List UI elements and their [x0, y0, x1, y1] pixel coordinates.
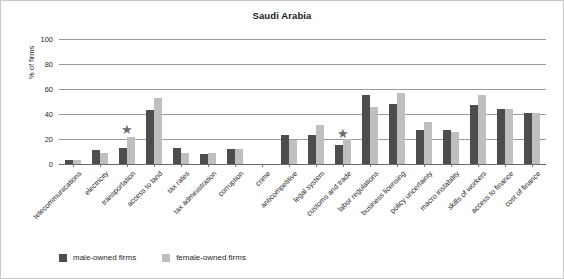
bar-group [465, 39, 492, 164]
bar-group [113, 39, 140, 164]
bar-group [384, 39, 411, 164]
bar-male [281, 135, 289, 164]
x-tick-label: electricity [82, 169, 110, 197]
x-tick-label: anticompetitive [259, 169, 300, 210]
bar-female [397, 93, 405, 164]
bar-group [492, 39, 519, 164]
legend-label: male-owned firms [73, 253, 136, 262]
x-tick [73, 164, 74, 167]
bar-male [443, 130, 451, 164]
x-tick [154, 164, 155, 167]
x-tick-label: telecommunications [31, 169, 83, 221]
legend-label: female-owned firms [176, 253, 246, 262]
x-tick-label: corruption [216, 169, 245, 198]
bar-group [519, 39, 546, 164]
chart-legend: male-owned firmsfemale-owned firms [59, 253, 246, 262]
x-tick-label: business licensing [359, 169, 407, 217]
bar-male [227, 149, 235, 164]
x-tick-label: policy uncertainty [388, 169, 434, 215]
x-tick-label: cost of finance [503, 169, 543, 209]
x-tick [370, 164, 371, 167]
gridline-0 [59, 164, 546, 165]
x-tick-label: tax administration [171, 169, 218, 216]
bar-female [478, 95, 486, 164]
bar-group [248, 39, 275, 164]
bar-male [335, 145, 343, 164]
x-tick [397, 164, 398, 167]
bar-male [308, 135, 316, 164]
bar-male [92, 150, 100, 164]
bar-group [167, 39, 194, 164]
x-tick [478, 164, 479, 167]
bar-group [411, 39, 438, 164]
bar-male [119, 148, 127, 164]
x-tick-label: transportation [99, 169, 137, 207]
x-tick [424, 164, 425, 167]
bar-male [416, 130, 424, 164]
y-tick-label-80: 80 [13, 60, 53, 69]
x-tick-label: tax rates [165, 169, 191, 195]
bar-female [289, 140, 297, 164]
x-tick [208, 164, 209, 167]
bar-group [330, 39, 357, 164]
x-tick-label: customs and trade [305, 169, 354, 218]
bar-male [524, 113, 532, 164]
bar-female [424, 122, 432, 165]
bar-male [497, 109, 505, 164]
legend-swatch [59, 254, 67, 262]
bar-female [127, 137, 135, 165]
legend-item: male-owned firms [59, 253, 136, 262]
bar-female [208, 153, 216, 164]
bar-group [140, 39, 167, 164]
bar-female [532, 113, 540, 164]
y-tick-label-20: 20 [13, 135, 53, 144]
bar-male [200, 154, 208, 164]
bar-series-layer [59, 39, 546, 164]
bar-group [221, 39, 248, 164]
x-tick [505, 164, 506, 167]
bar-group [303, 39, 330, 164]
bar-female [343, 139, 351, 164]
bar-male [173, 148, 181, 164]
y-tick-label-60: 60 [13, 85, 53, 94]
bar-male [362, 95, 370, 164]
x-tick [343, 164, 344, 167]
x-tick [532, 164, 533, 167]
bar-female [235, 149, 243, 164]
bar-group [86, 39, 113, 164]
x-tick-label: crime [253, 169, 272, 188]
x-tick [181, 164, 182, 167]
y-tick-label-100: 100 [13, 35, 53, 44]
x-tick-label: labor regulations [336, 169, 381, 214]
x-tick [100, 164, 101, 167]
x-tick-label: access to land [125, 169, 164, 208]
bar-male [65, 160, 73, 164]
bar-female [73, 160, 81, 164]
bar-female [370, 107, 378, 165]
bar-group [357, 39, 384, 164]
y-tick-label-0: 0 [13, 160, 53, 169]
plot-area: ★★ [59, 39, 546, 164]
bar-female [100, 153, 108, 164]
x-tick [316, 164, 317, 167]
bar-female [505, 109, 513, 164]
bar-female [181, 153, 189, 164]
bar-group [438, 39, 465, 164]
x-tick [235, 164, 236, 167]
bar-male [146, 110, 154, 164]
x-tick [289, 164, 290, 167]
bar-group [194, 39, 221, 164]
bar-group [59, 39, 86, 164]
x-tick [127, 164, 128, 167]
bar-group [275, 39, 302, 164]
x-tick [262, 164, 263, 167]
legend-item: female-owned firms [162, 253, 246, 262]
bar-male [389, 104, 397, 164]
legend-swatch [162, 254, 170, 262]
x-tick-label: skills of workers [446, 169, 489, 212]
bar-female [451, 132, 459, 165]
x-tick [451, 164, 452, 167]
x-tick-label: legal system [291, 169, 326, 204]
y-tick-label-40: 40 [13, 110, 53, 119]
chart-container: Saudi Arabia % of firms ★★ 020406080100 … [0, 0, 564, 279]
